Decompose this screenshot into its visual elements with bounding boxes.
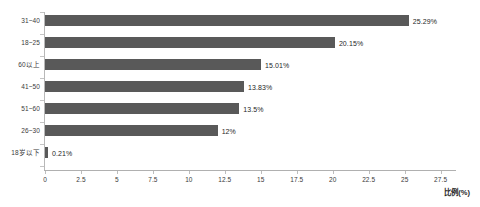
x-tick-label: 25 [390, 176, 420, 183]
bar [45, 37, 335, 48]
x-tick-mark [441, 171, 442, 174]
x-tick-label: 2.5 [66, 176, 96, 183]
x-tick-label: 22.5 [354, 176, 384, 183]
x-axis-line [44, 170, 456, 171]
bar-row: 51~6013.5% [0, 100, 480, 122]
y-tick-mark [40, 166, 44, 167]
bar-chart: 31~4025.29%18~2520.15%60以上15.01%41~5013.… [0, 0, 480, 207]
category-label: 51~60 [0, 104, 40, 113]
x-tick-mark [405, 171, 406, 174]
x-tick-mark [333, 171, 334, 174]
bar-value-label: 15.01% [265, 60, 289, 71]
x-tick-label: 17.5 [282, 176, 312, 183]
category-label: 41~50 [0, 82, 40, 91]
x-tick-mark [45, 171, 46, 174]
bar [45, 59, 261, 70]
bar [45, 15, 409, 26]
bar-row: 31~4025.29% [0, 12, 480, 34]
bar-value-label: 12% [222, 126, 236, 137]
x-tick-mark [297, 171, 298, 174]
x-tick-label: 5 [102, 176, 132, 183]
x-tick-label: 12.5 [210, 176, 240, 183]
bar [45, 103, 239, 114]
category-label: 26~30 [0, 126, 40, 135]
bar [45, 81, 244, 92]
x-tick-label: 0 [30, 176, 60, 183]
bar-value-label: 0.21% [52, 148, 72, 159]
category-label: 31~40 [0, 16, 40, 25]
x-tick-mark [369, 171, 370, 174]
bar-value-label: 13.5% [243, 104, 263, 115]
x-tick-mark [153, 171, 154, 174]
x-tick-label: 27.5 [426, 176, 456, 183]
x-tick-label: 7.5 [138, 176, 168, 183]
category-label: 18~25 [0, 38, 40, 47]
category-label: 60以上 [0, 60, 40, 69]
x-tick-label: 10 [174, 176, 204, 183]
bar-row: 26~3012% [0, 122, 480, 144]
x-tick-mark [225, 171, 226, 174]
category-label: 18岁以下 [0, 148, 40, 157]
x-tick-label: 15 [246, 176, 276, 183]
bar-value-label: 20.15% [339, 38, 363, 49]
bar-row: 60以上15.01% [0, 56, 480, 78]
bar [45, 147, 48, 158]
bar-value-label: 13.83% [248, 82, 272, 93]
bar-value-label: 25.29% [413, 16, 437, 27]
x-axis-title: 比例(%) [444, 186, 470, 197]
x-tick-label: 20 [318, 176, 348, 183]
bar-row: 18岁以下0.21% [0, 144, 480, 166]
x-tick-mark [261, 171, 262, 174]
x-tick-mark [189, 171, 190, 174]
bar-row: 18~2520.15% [0, 34, 480, 56]
x-tick-mark [81, 171, 82, 174]
bar [45, 125, 218, 136]
bar-row: 41~5013.83% [0, 78, 480, 100]
x-tick-mark [117, 171, 118, 174]
